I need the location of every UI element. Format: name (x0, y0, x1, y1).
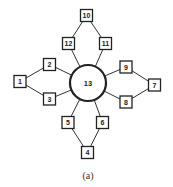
node-2: 2 (44, 59, 56, 71)
node-label: 9 (124, 64, 128, 71)
node-3: 3 (44, 93, 56, 105)
node-label: 6 (101, 119, 105, 126)
node-1: 1 (14, 76, 26, 88)
node-11: 11 (100, 38, 112, 50)
node-label: 7 (153, 82, 157, 89)
node-label: 4 (86, 149, 90, 156)
node-label: 5 (66, 119, 70, 126)
network-diagram: 13 1 2 3 4 5 6 7 8 9 10 11 (0, 0, 173, 187)
node-5: 5 (62, 117, 74, 129)
node-label: 12 (65, 40, 73, 47)
node-4: 4 (82, 147, 94, 159)
node-6: 6 (97, 117, 109, 129)
figure-caption: (a) (82, 170, 93, 182)
node-label: 10 (83, 12, 91, 19)
hub-node-13: 13 (70, 65, 106, 101)
node-8: 8 (120, 96, 132, 108)
node-label: 2 (48, 61, 52, 68)
node-7: 7 (149, 79, 161, 91)
node-12: 12 (63, 38, 75, 50)
node-9: 9 (120, 61, 132, 73)
node-label: 11 (102, 40, 110, 47)
node-label: 8 (124, 99, 128, 106)
node-label: 1 (18, 78, 22, 85)
hub-label: 13 (84, 79, 92, 88)
node-label: 3 (48, 96, 52, 103)
node-10: 10 (81, 10, 93, 22)
